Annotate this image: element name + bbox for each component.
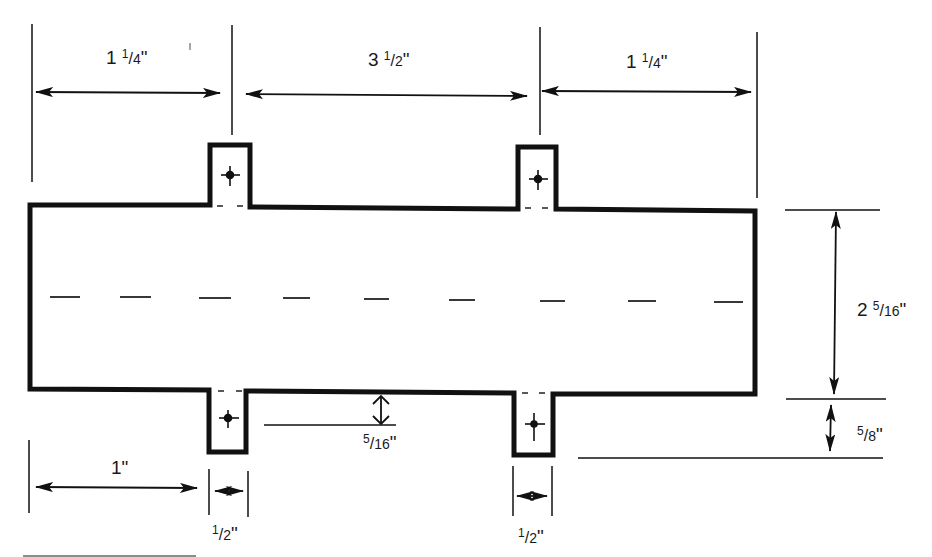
whole: 2 <box>857 299 868 320</box>
unit: " <box>876 424 883 445</box>
unit: " <box>390 432 397 453</box>
numerator: 5 <box>363 432 370 446</box>
whole: 1 <box>106 47 117 68</box>
dim-label-bottom-tab-width-right: 1/2" <box>518 527 544 546</box>
dim-label-right-tab-depth: 5/8" <box>857 425 883 444</box>
numerator: 1 <box>384 49 391 63</box>
centerline <box>50 297 743 302</box>
numerator: 1 <box>122 47 129 61</box>
unit: " <box>141 47 148 68</box>
numerator: 5 <box>873 299 880 313</box>
whole: 1 <box>626 51 637 72</box>
denominator: 16 <box>884 303 900 319</box>
dim-label-top-right: 1 1/4" <box>626 52 668 71</box>
whole: 1 <box>111 457 122 478</box>
denominator: 8 <box>868 428 876 444</box>
dimension-arrows <box>36 91 836 496</box>
unit: " <box>900 299 907 320</box>
numerator: 1 <box>642 51 649 65</box>
unit: " <box>403 49 410 70</box>
denominator: 2 <box>223 527 231 543</box>
dim-label-top-left: 1 1/4" <box>106 48 148 67</box>
denominator: 4 <box>653 55 661 71</box>
denominator: 2 <box>529 530 537 546</box>
denominator: 4 <box>133 51 141 67</box>
unit: " <box>537 526 544 547</box>
denominator: 2 <box>395 53 403 69</box>
denominator: 16 <box>374 436 390 452</box>
technical-drawing <box>0 0 932 557</box>
unit: " <box>231 523 238 544</box>
numerator: 5 <box>857 424 864 438</box>
unit: " <box>122 457 129 478</box>
numerator: 1 <box>212 523 219 537</box>
dim-label-top-middle: 3 1/2" <box>368 50 410 69</box>
unit: " <box>661 51 668 72</box>
dim-label-bottom-tab-width-left: 1/2" <box>212 524 238 543</box>
body-outline <box>30 145 755 455</box>
numerator: 1 <box>518 526 525 540</box>
whole: 3 <box>368 49 379 70</box>
dim-label-tab-offset: 5/16" <box>363 433 396 452</box>
dim-label-bottom-left: 1" <box>111 458 128 477</box>
dim-label-right-height: 2 5/16" <box>857 300 906 319</box>
